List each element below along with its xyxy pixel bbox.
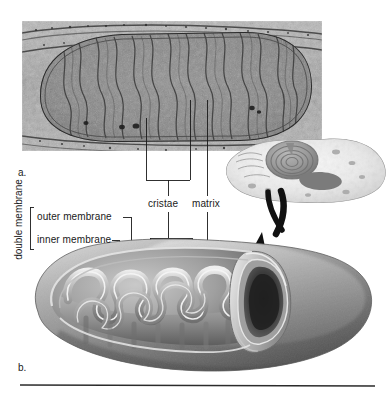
double-membrane-cut-face xyxy=(230,251,291,352)
label-inner-membrane: inner membrane xyxy=(37,235,111,245)
panel-a-micrograph xyxy=(22,21,322,153)
label-cristae: cristae xyxy=(148,199,178,209)
label-double-membrane: double membrane xyxy=(13,178,24,262)
panel-b-letter: b. xyxy=(18,363,26,373)
mitochondrion-figure: a. b. double membrane outer membrane inn… xyxy=(0,0,392,400)
label-outer-membrane: outer membrane xyxy=(37,212,112,222)
label-matrix: matrix xyxy=(192,199,220,209)
panel-a-letter: a. xyxy=(18,168,26,178)
